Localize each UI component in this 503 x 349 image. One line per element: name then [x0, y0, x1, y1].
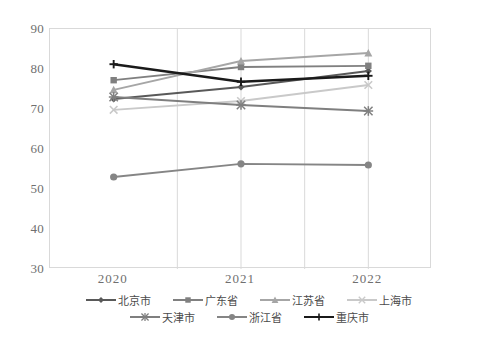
legend-label: 天津市 — [162, 309, 195, 325]
legend-item-3[interactable]: 江苏省 — [260, 291, 325, 308]
legend-swatch-icon — [173, 294, 203, 306]
x-tick-label: 2022 — [352, 272, 382, 285]
series-marker — [185, 297, 190, 302]
series-marker — [365, 161, 372, 168]
y-tick-label: 30 — [4, 262, 44, 275]
y-tick-label: 80 — [4, 62, 44, 75]
legend-marker-icon — [94, 293, 108, 307]
y-tick-label: 40 — [4, 222, 44, 235]
legend-swatch-icon — [304, 311, 334, 323]
series-marker — [238, 64, 244, 70]
legend-item-6[interactable]: 浙江省 — [217, 308, 282, 325]
chart-legend: 北京市广东省江苏省上海市天津市浙江省重庆市 — [49, 291, 449, 325]
legend-item-2[interactable]: 广东省 — [173, 291, 238, 308]
legend-label: 浙江省 — [249, 309, 282, 325]
y-tick-label: 90 — [4, 22, 44, 35]
legend-swatch-icon — [260, 294, 290, 306]
legend-item-5[interactable]: 天津市 — [130, 308, 195, 325]
legend-label: 上海市 — [379, 292, 412, 308]
legend-label: 重庆市 — [336, 309, 369, 325]
series-marker — [272, 296, 279, 302]
legend-swatch-icon — [130, 311, 160, 323]
series-marker — [228, 313, 234, 319]
plot-canvas — [50, 29, 432, 269]
x-axis: 202020212022 — [49, 272, 431, 292]
legend-marker-icon — [312, 310, 326, 324]
legend-swatch-icon — [347, 294, 377, 306]
x-tick-label: 2021 — [225, 272, 255, 285]
legend-marker-icon — [138, 310, 152, 324]
line-chart: 90807060504030 202020212022 北京市广东省江苏省上海市… — [0, 0, 503, 349]
y-axis: 90807060504030 — [0, 0, 44, 349]
legend-label: 江苏省 — [292, 292, 325, 308]
series-marker — [98, 296, 104, 302]
legend-marker-icon — [181, 293, 195, 307]
series-marker — [237, 160, 244, 167]
y-tick-label: 60 — [4, 142, 44, 155]
legend-swatch-icon — [217, 311, 247, 323]
legend-label: 北京市 — [118, 292, 151, 308]
series-marker — [110, 77, 116, 83]
y-tick-label: 70 — [4, 102, 44, 115]
legend-marker-icon — [355, 293, 369, 307]
legend-marker-icon — [268, 293, 282, 307]
legend-swatch-icon — [86, 294, 116, 306]
series-marker — [365, 63, 371, 69]
y-tick-label: 50 — [4, 182, 44, 195]
plot-area — [49, 28, 431, 268]
legend-item-7[interactable]: 重庆市 — [304, 308, 369, 325]
x-tick-label: 2020 — [98, 272, 128, 285]
legend-item-4[interactable]: 上海市 — [347, 291, 412, 308]
legend-label: 广东省 — [205, 292, 238, 308]
legend-marker-icon — [225, 310, 239, 324]
legend-item-1[interactable]: 北京市 — [86, 291, 151, 308]
series-marker — [110, 173, 117, 180]
